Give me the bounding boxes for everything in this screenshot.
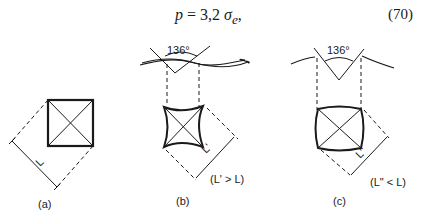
- panel-b-angle: 136°: [167, 44, 190, 56]
- panel-b-caption: (b): [176, 195, 189, 207]
- panel-c: [291, 48, 394, 175]
- panel-a: [9, 100, 93, 190]
- panel-c-relation: (L" < L): [370, 176, 406, 188]
- panel-a-dimension-label: L: [33, 156, 46, 169]
- panel-b-relation: (L' > L): [210, 173, 244, 185]
- panel-c-dimension-label: L": [353, 145, 369, 161]
- panel-c-caption: (c): [333, 195, 346, 207]
- panel-b: [140, 46, 249, 180]
- panel-a-caption: (a): [38, 198, 51, 210]
- indentation-figure: L (a) 136° L' (L' > L) (b) 136° L" (L" <…: [0, 0, 422, 222]
- panel-c-angle: 136°: [327, 44, 350, 56]
